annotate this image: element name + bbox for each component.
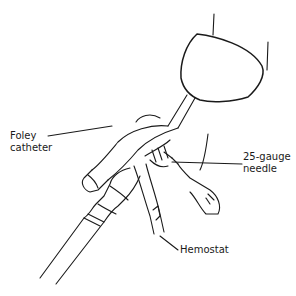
- syringe: [164, 152, 220, 214]
- hemostat-label: Hemostat: [180, 244, 229, 256]
- drainage-tube: [40, 168, 140, 284]
- tube: [168, 95, 195, 128]
- hand: [145, 134, 208, 170]
- hemostat: [134, 164, 164, 234]
- foley-label-line2: catheter: [10, 142, 52, 154]
- hemostat-label-text: Hemostat: [180, 244, 229, 256]
- needle-label-line2: needle: [243, 163, 291, 175]
- needle-label-line1: 25-gauge: [243, 151, 291, 163]
- needle-label: 25-gauge needle: [243, 151, 291, 175]
- foley-catheter: [82, 115, 178, 192]
- foley-leader-line: [48, 126, 112, 136]
- foley-label-line1: Foley: [10, 130, 52, 142]
- foley-catheter-label: Foley catheter: [10, 130, 52, 154]
- illustration: Foley catheter 25-gauge needle Hemostat: [0, 0, 296, 296]
- needle-leader-line: [172, 162, 242, 164]
- balloon-outline: [181, 34, 263, 102]
- hemostat-leader-line: [160, 236, 178, 250]
